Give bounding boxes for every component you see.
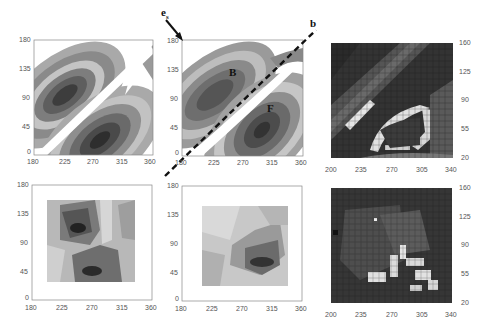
label-B: B bbox=[229, 66, 236, 78]
tick-y: 90 bbox=[22, 94, 30, 101]
label-es: es bbox=[161, 6, 169, 21]
tick-x: 315 bbox=[266, 305, 278, 312]
tick-y: 45 bbox=[20, 268, 28, 275]
tick-x: 360 bbox=[295, 305, 307, 312]
tick-x: 305 bbox=[416, 166, 428, 173]
tick-y: 55 bbox=[461, 270, 469, 277]
tick-x: 270 bbox=[386, 311, 398, 318]
tick-y: 135 bbox=[167, 211, 179, 218]
tick-y: 55 bbox=[461, 125, 469, 132]
tick-y: 20 bbox=[461, 154, 469, 161]
tick-x: 225 bbox=[206, 305, 218, 312]
tick-x: 315 bbox=[116, 304, 128, 311]
tick-x: 315 bbox=[266, 159, 278, 166]
label-b: b bbox=[310, 17, 316, 29]
tick-x: 225 bbox=[208, 159, 220, 166]
tick-x: 270 bbox=[386, 166, 398, 173]
label-es-sub: s bbox=[166, 13, 169, 21]
tick-y: 160 bbox=[459, 39, 471, 46]
grid-heatmap-top-right bbox=[331, 43, 453, 158]
tick-x: 180 bbox=[27, 158, 39, 165]
tick-x: 305 bbox=[416, 311, 428, 318]
tick-x: 180 bbox=[25, 304, 37, 311]
tick-y: 45 bbox=[22, 123, 30, 130]
tick-y: 135 bbox=[17, 210, 29, 217]
tick-x: 270 bbox=[86, 304, 98, 311]
tick-y: 180 bbox=[17, 181, 29, 188]
tick-y: 0 bbox=[25, 294, 29, 301]
tick-x: 200 bbox=[325, 311, 337, 318]
tick-y: 180 bbox=[167, 37, 179, 44]
tick-x: 225 bbox=[56, 304, 68, 311]
tick-y: 180 bbox=[19, 36, 31, 43]
tick-y: 45 bbox=[170, 269, 178, 276]
tick-x: 235 bbox=[355, 166, 367, 173]
tick-x: 315 bbox=[116, 158, 128, 165]
tick-x: 340 bbox=[445, 311, 457, 318]
tick-x: 360 bbox=[295, 159, 307, 166]
tick-y: 90 bbox=[170, 240, 178, 247]
tick-y: 90 bbox=[461, 241, 469, 248]
tick-y: 125 bbox=[459, 68, 471, 75]
tick-y: 45 bbox=[170, 124, 178, 131]
label-F: F bbox=[267, 102, 274, 114]
tick-x: 270 bbox=[236, 305, 248, 312]
tick-y: 90 bbox=[20, 239, 28, 246]
tick-x: 340 bbox=[445, 166, 457, 173]
tick-x: 270 bbox=[237, 159, 249, 166]
tick-y: 160 bbox=[459, 184, 471, 191]
grid-heatmap-bottom-right bbox=[331, 188, 452, 303]
tick-y: 0 bbox=[175, 149, 179, 156]
tick-x: 270 bbox=[87, 158, 99, 165]
tick-x: 200 bbox=[325, 166, 337, 173]
tick-y: 90 bbox=[170, 95, 178, 102]
tick-y: 20 bbox=[461, 299, 469, 306]
tick-x: 180 bbox=[175, 305, 187, 312]
tick-y: 0 bbox=[175, 295, 179, 302]
tick-y: 135 bbox=[167, 66, 179, 73]
tick-y: 180 bbox=[167, 182, 179, 189]
tick-x: 225 bbox=[59, 158, 71, 165]
tick-y: 90 bbox=[461, 96, 469, 103]
tick-x: 235 bbox=[355, 311, 367, 318]
tick-x: 180 bbox=[175, 159, 187, 166]
tick-x: 360 bbox=[145, 304, 157, 311]
tick-y: 135 bbox=[19, 65, 31, 72]
tick-y: 125 bbox=[459, 213, 471, 220]
tick-x: 360 bbox=[144, 158, 156, 165]
tick-y: 0 bbox=[27, 148, 31, 155]
